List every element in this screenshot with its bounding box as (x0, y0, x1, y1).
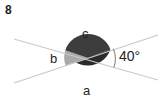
angle-label-c: c (82, 27, 89, 40)
angle-arc-marker-icon (113, 49, 115, 68)
angle-label-b: b (50, 52, 57, 65)
question-number: 8 (5, 3, 12, 17)
figure-page: 8 c a b 40° (0, 0, 162, 108)
known-angle-label: 40° (119, 49, 140, 63)
angle-label-a: a (83, 84, 90, 97)
